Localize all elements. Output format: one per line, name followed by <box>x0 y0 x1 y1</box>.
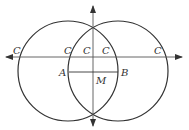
label-c-inner-left: C <box>64 45 72 56</box>
label-c-center-right: C <box>102 45 110 56</box>
label-c-far-left: C <box>13 45 21 56</box>
label-m: M <box>95 75 107 86</box>
label-a: A <box>58 67 66 78</box>
label-c-center-left: C <box>83 45 91 56</box>
label-b: B <box>120 67 128 78</box>
diagram: C C C C C A B M <box>0 0 189 130</box>
label-c-far-right: C <box>154 45 162 56</box>
